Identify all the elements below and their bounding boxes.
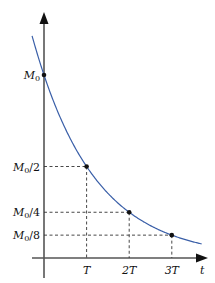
x-tick-label: T [83, 264, 92, 277]
y-tick-label: M0/4 [12, 206, 40, 220]
decay-chart: M0M0/2M0/4M0/8 T2T3T t [0, 0, 215, 283]
y-tick-label: M0/2 [12, 161, 40, 175]
data-point [84, 164, 89, 169]
marked-points [42, 73, 174, 238]
x-tick-label: 2T [121, 264, 138, 277]
data-point [127, 210, 132, 215]
dashed-guides [44, 167, 172, 259]
y-tick-label: M0/8 [12, 229, 40, 243]
data-point [170, 233, 175, 238]
x-tick-label: 3T [165, 264, 181, 277]
data-point [42, 73, 47, 78]
x-tick-labels: T2T3T [83, 264, 181, 277]
y-axis-arrow-icon [40, 12, 49, 24]
decay-curve [32, 36, 202, 244]
x-axis-label: t [200, 264, 205, 277]
x-axis-arrow-icon [196, 254, 208, 263]
y-tick-label: M0 [23, 69, 40, 83]
y-tick-labels: M0M0/2M0/4M0/8 [12, 69, 40, 243]
